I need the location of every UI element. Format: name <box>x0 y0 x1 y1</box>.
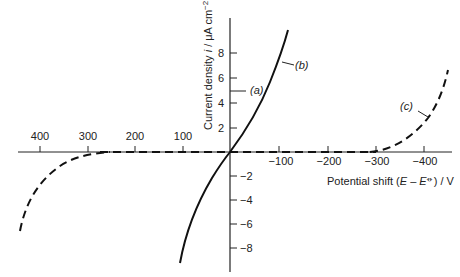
x-tick-label: 300 <box>79 130 97 142</box>
curve-b-leader <box>282 62 294 65</box>
curve-b <box>180 30 288 263</box>
curve-c-leader <box>418 111 428 117</box>
y-tick-label: −6 <box>240 218 253 230</box>
y-axis-label: Current density i / μA cm−2 <box>201 0 214 130</box>
y-tick-label: 6 <box>218 72 224 84</box>
x-axis-label: Potential shift (E – E⦵) / V <box>327 174 455 187</box>
x-tick-label: 100 <box>174 130 192 142</box>
curve-c-label: (c) <box>400 100 413 112</box>
y-tick-label: −4 <box>240 194 253 206</box>
x-tick-label: 400 <box>31 130 49 142</box>
x-tick-label: −100 <box>269 155 294 167</box>
x-tick-label: 200 <box>126 130 144 142</box>
y-tick-label: 8 <box>218 47 224 59</box>
y-tick-label: −2 <box>240 170 253 182</box>
y-tick-label: 2 <box>218 122 224 134</box>
curve-c-left <box>20 152 110 231</box>
curve-a-label: (a) <box>250 84 264 96</box>
curve-b-label: (b) <box>295 59 309 71</box>
x-tick-label: −400 <box>413 155 438 167</box>
chart: 400 300 200 100 −100 −200 −300 −400 8 6 … <box>0 0 460 277</box>
y-tick-label: −8 <box>240 242 253 254</box>
x-tick-label: −300 <box>365 155 390 167</box>
y-tick-label: 4 <box>218 97 224 109</box>
x-tick-label: −200 <box>317 155 342 167</box>
